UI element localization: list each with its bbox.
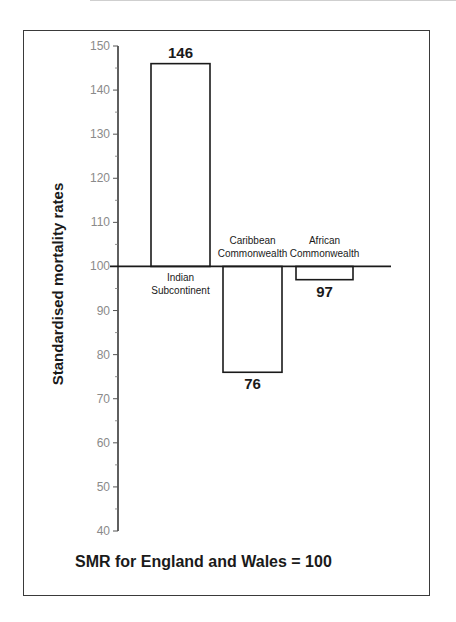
category-label: Commonwealth xyxy=(218,248,287,259)
category-label: Caribbean xyxy=(229,235,275,246)
value-label: 76 xyxy=(244,375,261,392)
y-tick-label: 50 xyxy=(97,480,111,494)
bar-indian-subcontinent xyxy=(151,64,210,267)
y-tick-label: 80 xyxy=(97,348,111,362)
y-tick-label: 140 xyxy=(90,83,110,97)
y-tick-label: 110 xyxy=(91,215,110,229)
bar-caribbean-commonwealth xyxy=(223,266,282,372)
y-tick-label: 150 xyxy=(90,39,110,53)
footnote: SMR for England and Wales = 100 xyxy=(75,553,332,571)
category-label: Commonwealth xyxy=(290,248,359,259)
value-label: 97 xyxy=(316,283,333,300)
bar-african-commonwealth xyxy=(296,266,353,279)
category-label: Indian xyxy=(167,272,194,283)
y-tick-label: 70 xyxy=(97,392,111,406)
y-tick-label: 100 xyxy=(90,259,110,273)
y-tick-label: 90 xyxy=(97,304,111,318)
bar-chart: 405060708090100110120130140150 146Indian… xyxy=(0,0,456,622)
category-label: Subcontinent xyxy=(151,285,210,296)
y-tick-label: 130 xyxy=(90,127,110,141)
y-tick-label: 40 xyxy=(97,524,111,538)
bars xyxy=(110,64,391,373)
y-tick-label: 120 xyxy=(90,171,110,185)
value-label: 146 xyxy=(168,44,193,61)
y-tick-label: 60 xyxy=(97,436,111,450)
y-axis: 405060708090100110120130140150 xyxy=(90,39,118,538)
category-label: African xyxy=(309,235,340,246)
y-axis-label: Standardised mortality rates xyxy=(49,183,66,386)
